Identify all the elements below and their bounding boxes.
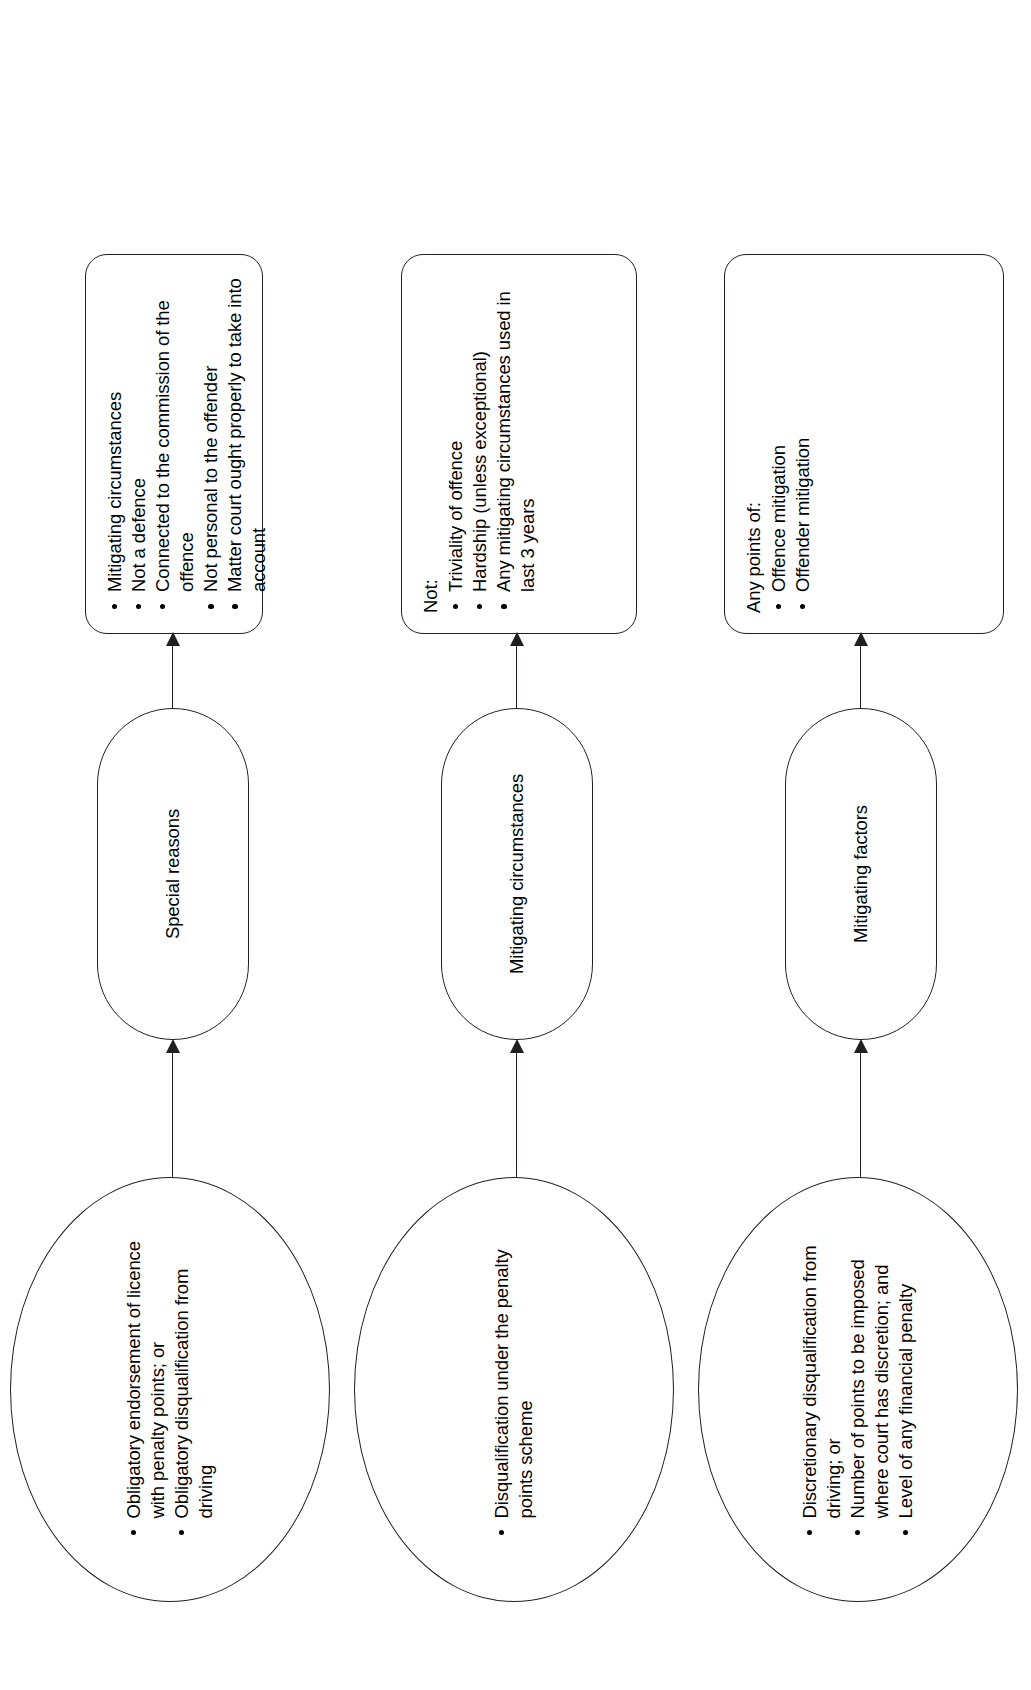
list-item: Not a defence — [127, 275, 151, 613]
bullet-list: Obligatory endorsement of licence with p… — [122, 1240, 218, 1540]
ellipse-content: Discretionary disqualification from driv… — [798, 1234, 918, 1546]
bullet-list: Mitigating circumstances Not a defence C… — [103, 275, 271, 613]
bullet-list: Offence mitigation Offender mitigation — [767, 275, 815, 613]
arrow-shaft — [172, 644, 173, 708]
start-ellipse-special-reasons: Obligatory endorsement of licence with p… — [10, 1177, 330, 1602]
bullet-list: Disqualification under the penalty point… — [490, 1240, 538, 1540]
pill-label: Special reasons — [161, 809, 184, 939]
list-item: Mitigating circumstances — [103, 275, 127, 613]
list-item: Offender mitigation — [791, 275, 815, 613]
box-heading: Any points of: — [742, 275, 766, 613]
bullet-list: Triviality of offence Hardship (unless e… — [444, 275, 540, 613]
arrow-shaft — [860, 644, 861, 708]
end-box-mitigating-factors: Any points of: Offence mitigation Offend… — [724, 254, 1004, 634]
arrow-shaft — [172, 1051, 173, 1177]
arrow-middle-to-end — [510, 632, 524, 708]
middle-pill-special-reasons: Special reasons — [97, 708, 249, 1040]
middle-pill-mitigating-factors: Mitigating factors — [785, 708, 937, 1040]
bullet-list: Discretionary disqualification from driv… — [798, 1240, 918, 1540]
arrow-shaft — [860, 1051, 861, 1177]
flow-special-reasons: Obligatory endorsement of licence with p… — [0, 0, 343, 1690]
list-item: Not personal to the offender — [199, 275, 223, 613]
list-item: Level of any financial penalty — [894, 1240, 918, 1540]
arrow-start-to-middle — [166, 1039, 180, 1177]
list-item: Any mitigating circumstances used in las… — [492, 275, 540, 613]
box-heading: Not: — [419, 275, 443, 613]
arrow-head-icon — [510, 632, 524, 646]
start-ellipse-mitigating-circumstances: Disqualification under the penalty point… — [354, 1177, 674, 1602]
arrow-shaft — [516, 644, 517, 708]
flow-mitigating-circumstances: Disqualification under the penalty point… — [344, 0, 687, 1690]
arrow-start-to-middle — [854, 1039, 868, 1177]
pill-label: Mitigating circumstances — [505, 774, 528, 974]
arrow-head-icon — [854, 632, 868, 646]
list-item: Connected to the commission of the offen… — [151, 275, 199, 613]
arrow-head-icon — [854, 1039, 868, 1053]
list-item: Offence mitigation — [767, 275, 791, 613]
arrow-middle-to-end — [166, 632, 180, 708]
start-ellipse-mitigating-factors: Discretionary disqualification from driv… — [698, 1177, 1018, 1602]
list-item: Obligatory endorsement of licence with p… — [122, 1240, 170, 1540]
ellipse-content: Obligatory endorsement of licence with p… — [122, 1234, 218, 1546]
arrow-middle-to-end — [854, 632, 868, 708]
arrow-head-icon — [510, 1039, 524, 1053]
diagram-canvas: Obligatory endorsement of licence with p… — [0, 0, 1031, 1690]
arrow-head-icon — [166, 1039, 180, 1053]
arrow-head-icon — [166, 632, 180, 646]
end-box-special-reasons: Mitigating circumstances Not a defence C… — [85, 254, 263, 634]
list-item: Triviality of offence — [444, 275, 468, 613]
list-item: Matter court ought properly to take into… — [223, 275, 271, 613]
list-item: Disqualification under the penalty point… — [490, 1240, 538, 1540]
list-item: Discretionary disqualification from driv… — [798, 1240, 846, 1540]
ellipse-content: Disqualification under the penalty point… — [490, 1234, 538, 1546]
flow-mitigating-factors: Discretionary disqualification from driv… — [688, 0, 1031, 1690]
arrow-start-to-middle — [510, 1039, 524, 1177]
list-item: Number of points to be imposed where cou… — [846, 1240, 894, 1540]
list-item: Hardship (unless exceptional) — [468, 275, 492, 613]
end-box-mitigating-circumstances: Not: Triviality of offence Hardship (unl… — [401, 254, 637, 634]
arrow-shaft — [516, 1051, 517, 1177]
pill-label: Mitigating factors — [849, 805, 872, 943]
list-item: Obligatory disqualification from driving — [170, 1240, 218, 1540]
middle-pill-mitigating-circumstances: Mitigating circumstances — [441, 708, 593, 1040]
